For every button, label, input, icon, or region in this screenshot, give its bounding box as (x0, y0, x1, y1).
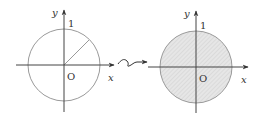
y-axis-label: y (51, 7, 58, 18)
radius-label: 1 (68, 18, 74, 29)
origin-label: O (67, 71, 75, 82)
diagram: y x O 1 y x O 1 (0, 0, 261, 120)
transform-arrow (118, 60, 147, 67)
x-axis-label: x (108, 72, 114, 83)
y-axis-label: y (183, 8, 190, 19)
x-axis-label: x (241, 74, 247, 85)
origin-label: O (199, 73, 207, 84)
left-panel: y x O 1 (16, 7, 114, 112)
right-panel: y x O 1 (148, 8, 248, 113)
wavy-arrow-icon (118, 60, 147, 67)
radius-segment (64, 40, 89, 65)
radius-label: 1 (200, 20, 206, 31)
